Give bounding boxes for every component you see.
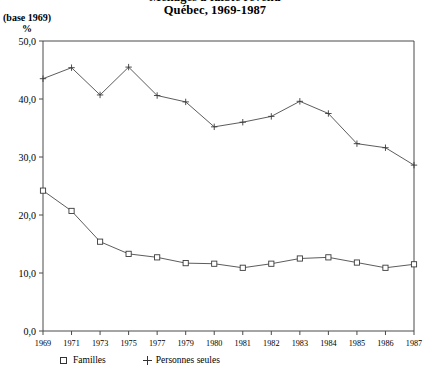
x-tick-label: 1984 (320, 339, 336, 348)
plot-area: 0,010,020,030,040,050,0 1969197119731975… (0, 0, 430, 371)
y-tick-label: 30,0 (19, 152, 37, 163)
series-personnes-seules (40, 64, 417, 168)
legend-item-familles: Familles (60, 355, 106, 365)
x-tick-label: 1986 (377, 339, 393, 348)
x-tick-label: 1980 (206, 339, 222, 348)
data-point-marker (69, 208, 74, 213)
series-familles (40, 188, 416, 270)
data-point-marker (297, 98, 303, 104)
x-tick-label: 1982 (263, 339, 279, 348)
legend-label-personnes-seules: Personnes seules (156, 355, 220, 365)
chart-figure: Ménages à faible revenu Québec, 1969-198… (0, 0, 430, 371)
data-point-marker (183, 261, 188, 266)
data-point-marker (411, 162, 417, 168)
series-group (40, 64, 417, 270)
y-tick-label: 40,0 (19, 94, 37, 105)
data-point-marker (97, 239, 102, 244)
data-point-marker (268, 113, 274, 119)
x-tick-label: 1971 (63, 339, 79, 348)
data-point-marker (155, 255, 160, 260)
data-point-marker (354, 260, 359, 265)
data-point-marker (212, 261, 217, 266)
x-tick-label: 1973 (92, 339, 108, 348)
data-point-marker (240, 265, 245, 270)
data-point-marker (40, 188, 45, 193)
y-ticks-group: 0,010,020,030,040,050,0 (19, 36, 44, 337)
x-tick-label: 1979 (178, 339, 194, 348)
plus-marker-icon (143, 356, 151, 364)
x-tick-label: 1977 (149, 339, 165, 348)
data-point-marker (40, 76, 46, 82)
data-point-marker (126, 251, 131, 256)
data-point-marker (269, 261, 274, 266)
y-tick-label: 10,0 (19, 268, 37, 279)
x-tick-label: 1985 (349, 339, 365, 348)
x-tick-label: 1981 (235, 339, 251, 348)
axes-group (43, 41, 414, 331)
data-point-marker (382, 145, 388, 151)
data-point-marker (383, 265, 388, 270)
data-point-marker (411, 262, 416, 267)
y-tick-label: 0,0 (24, 326, 37, 337)
chart-legend: Familles Personnes seules (60, 355, 220, 365)
y-tick-label: 20,0 (19, 210, 37, 221)
data-point-marker (240, 119, 246, 125)
x-tick-label: 1987 (406, 339, 422, 348)
x-ticks-group: 1969197119731975197719791980198119821983… (35, 331, 422, 348)
y-tick-label: 50,0 (19, 36, 37, 47)
x-tick-label: 1975 (120, 339, 136, 348)
data-point-marker (297, 256, 302, 261)
x-tick-label: 1983 (292, 339, 308, 348)
chart-svg: 0,010,020,030,040,050,0 1969197119731975… (0, 0, 430, 371)
square-marker-icon (60, 357, 67, 364)
x-tick-label: 1969 (35, 339, 51, 348)
data-point-marker (326, 255, 331, 260)
legend-item-personnes-seules: Personnes seules (143, 355, 220, 365)
legend-label-familles: Familles (73, 355, 106, 365)
